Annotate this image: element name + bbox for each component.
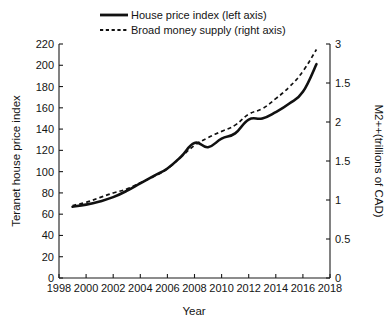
y-left-tick-label: 120	[36, 144, 54, 156]
legend-label-house-price-index: House price index (left axis)	[131, 9, 267, 21]
y-right-tick-label: 2	[335, 116, 341, 128]
y-right-tick-label: 1.5	[335, 155, 350, 167]
x-tick-label: 2014	[264, 282, 288, 294]
x-tick-label: 2004	[128, 282, 152, 294]
y-left-tick-label: 100	[36, 166, 54, 178]
chart-figure: House price index (left axis) Broad mone…	[0, 0, 390, 327]
y-left-tick-label: 80	[42, 187, 54, 199]
y-left-tick-label: 160	[36, 102, 54, 114]
x-tick-label: 2002	[101, 282, 125, 294]
y-right-axis-title: M2++(trillions of CAD)	[373, 104, 385, 217]
y-right-tick-label: 3	[335, 38, 341, 50]
x-tick-label: 2012	[236, 282, 260, 294]
y-right-tick-label: 1	[335, 194, 341, 206]
x-tick-label: 2016	[291, 282, 315, 294]
y-left-tick-label: 200	[36, 59, 54, 71]
x-tick-label: 2010	[209, 282, 233, 294]
y-left-axis-title: Teranet house price index	[10, 95, 22, 227]
y-left-tick-label: 40	[42, 229, 54, 241]
y-right-tick-label: 0.5	[335, 233, 350, 245]
x-tick-label: 2008	[182, 282, 206, 294]
y-left-tick-label: 60	[42, 208, 54, 220]
x-axis-title: Year	[182, 305, 205, 317]
x-tick-label: 2018	[318, 282, 342, 294]
y-left-tick-label: 180	[36, 81, 54, 93]
y-left-tick-label: 20	[42, 251, 54, 263]
legend-label-broad-money-supply: Broad money supply (right axis)	[131, 24, 286, 36]
x-tick-label: 2006	[155, 282, 179, 294]
x-tick-label: 2000	[74, 282, 98, 294]
x-tick-label: 1998	[47, 282, 71, 294]
y-left-tick-label: 140	[36, 123, 54, 135]
y-left-tick-label: 220	[36, 38, 54, 50]
y-right-tick-label: 1.5	[335, 77, 350, 89]
